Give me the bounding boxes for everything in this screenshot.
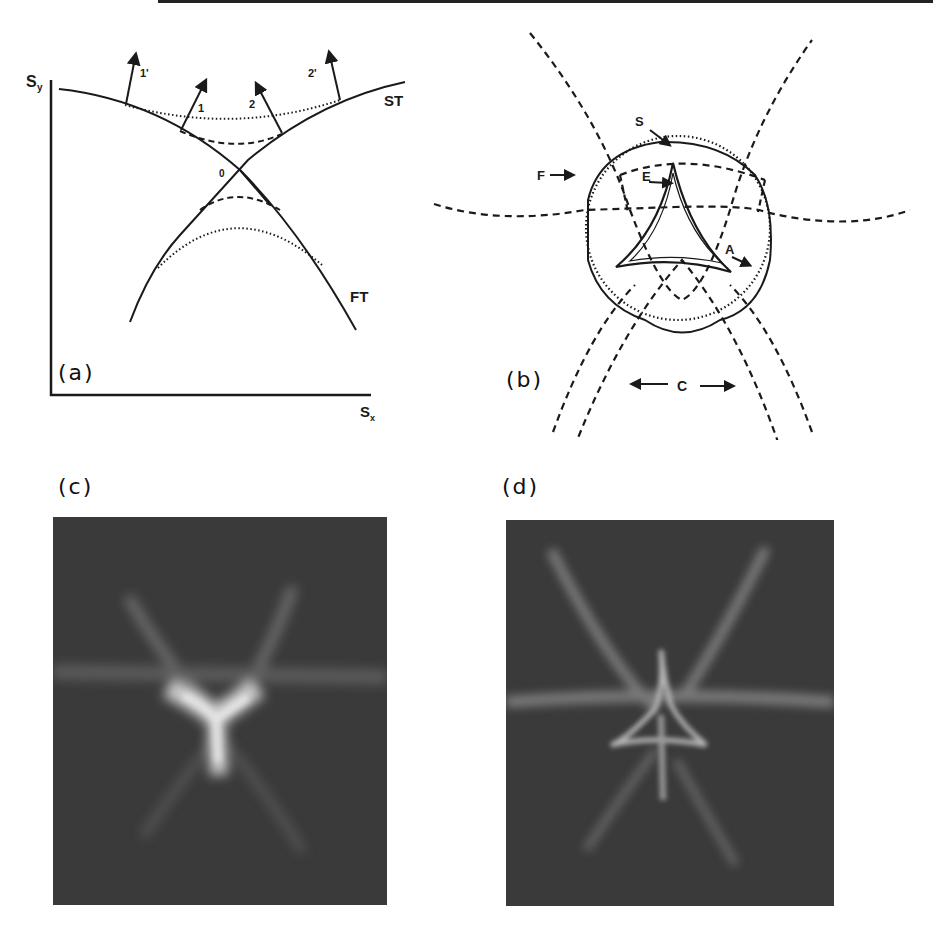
x-axis-label: S [360,403,370,420]
curve-label-st: ST [384,92,403,109]
panel-label-c: (c) [58,474,93,499]
panel-label-d: (d) [502,474,539,499]
curve-label-ft: FT [350,288,368,305]
panel-b-diagram: S F E A C [420,0,930,440]
photo-d-caustic [506,520,834,906]
marker-e: E [642,169,651,184]
marker-a: A [725,242,735,257]
photo-d [506,520,834,906]
panel-a: S y S x ST FT 0 1' 1 2 2' (a) [0,0,465,440]
marker-f: F [537,168,545,183]
arrow-label-1-prime: 1' [140,67,149,79]
svg-text:y: y [37,82,43,93]
photo-c [53,517,387,905]
arrow-label-2: 2 [249,98,255,110]
ghost-text [540,908,544,924]
marker-s: S [635,114,644,129]
svg-text:x: x [370,413,375,423]
arrow-label-2-prime: 2' [308,67,317,79]
photo-c-caustic [53,517,387,905]
panel-label-a: (a) [58,360,95,385]
y-axis-label: S [26,73,37,90]
intersection-label: 0 [219,168,225,179]
marker-c: C [677,378,687,394]
panel-b: S F E A C (b) [420,0,930,440]
arrow-label-1: 1 [198,102,204,114]
panel-label-b: (b) [506,367,543,392]
